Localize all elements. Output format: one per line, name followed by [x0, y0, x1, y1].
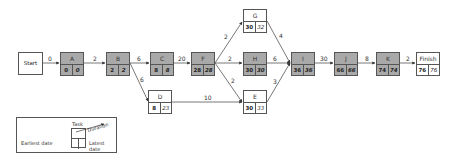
earliest-date: 30	[244, 22, 255, 33]
task-label: H	[244, 53, 266, 65]
edge-label-j-k: 8	[365, 55, 369, 62]
task-label: C	[151, 53, 173, 65]
earliest-date: 66	[335, 65, 346, 76]
latest-date: 33	[255, 103, 267, 114]
finish-label: Finish	[417, 53, 439, 65]
task-node-d: D 823	[148, 90, 172, 114]
task-node-k: K 7474	[376, 52, 400, 76]
earliest-date: 8	[151, 65, 162, 76]
latest-date: 74	[388, 65, 400, 76]
task-label: K	[377, 53, 399, 65]
earliest-date: 30	[244, 65, 255, 76]
legend-duration-label: Duration	[87, 121, 110, 133]
task-node-e: E 3033	[243, 90, 267, 114]
earliest-date: 0	[61, 65, 72, 76]
task-label: I	[292, 53, 314, 65]
edge-label-d-e: 10	[204, 94, 212, 101]
latest-date: 2	[118, 65, 130, 76]
latest-date: 23	[160, 103, 172, 114]
latest-date: 32	[255, 22, 267, 33]
task-label: A	[61, 53, 83, 65]
legend-task-label: Task	[72, 121, 83, 127]
task-node-b: B 22	[106, 52, 130, 76]
latest-date: 30	[255, 65, 267, 76]
earliest-date: 76	[417, 65, 428, 76]
earliest-date: 8	[149, 103, 160, 114]
edge-label-b-d: 6	[140, 76, 144, 83]
task-label: E	[244, 91, 266, 103]
latest-date: 76	[428, 65, 440, 76]
edge-label-h-i: 6	[273, 55, 277, 62]
latest-date: 28	[203, 65, 215, 76]
legend-node-sample	[71, 128, 86, 148]
edge-label-a-b: 2	[93, 55, 97, 62]
task-node-h: H 3030	[243, 52, 267, 76]
legend-latest-label: Latest date	[89, 140, 116, 152]
start-node: Start	[18, 52, 43, 75]
task-node-g: G 3032	[243, 9, 267, 33]
edge-label-f-h: 2	[228, 55, 232, 62]
legend-earliest-label: Earliest date	[21, 140, 53, 146]
earliest-date: 2	[107, 65, 118, 76]
task-label: J	[335, 53, 357, 65]
edge-label-e-i: 3	[273, 78, 277, 85]
task-label: D	[149, 91, 171, 103]
latest-date: 8	[162, 65, 174, 76]
task-node-a: A 00	[60, 52, 84, 76]
legend-box: Task Duration Earliest date Latest date	[16, 117, 117, 153]
latest-date: 66	[346, 65, 358, 76]
edge-label-k-finish: 2	[406, 55, 410, 62]
edge-label-f-e: 2	[231, 77, 235, 84]
edge-label-start-a: 0	[48, 55, 52, 62]
task-node-f: F 2828	[191, 52, 215, 76]
task-label: G	[244, 10, 266, 22]
task-label: F	[192, 53, 214, 65]
earliest-date: 28	[192, 65, 203, 76]
edge-label-i-j: 30	[320, 55, 328, 62]
task-node-c: C 88	[150, 52, 174, 76]
edge-label-g-i: 4	[279, 32, 283, 39]
edge-label-f-g: 2	[224, 33, 228, 40]
edge-label-c-f: 20	[178, 55, 186, 62]
earliest-date: 74	[377, 65, 388, 76]
finish-node: Finish 7676	[416, 52, 440, 76]
edge-label-b-c: 6	[137, 55, 141, 62]
task-node-i: I 3636	[291, 52, 315, 76]
latest-date: 0	[72, 65, 84, 76]
task-label: B	[107, 53, 129, 65]
earliest-date: 36	[292, 65, 303, 76]
task-node-j: J 6666	[334, 52, 358, 76]
earliest-date: 30	[244, 103, 255, 114]
latest-date: 36	[303, 65, 315, 76]
